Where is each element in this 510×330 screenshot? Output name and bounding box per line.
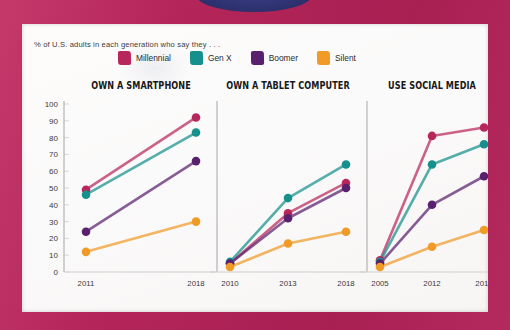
data-point-boomer — [342, 184, 351, 193]
legend-item-silent: Silent — [317, 51, 356, 65]
subtitle: % of U.S. adults in each generation who … — [34, 40, 220, 49]
data-point-silent — [192, 217, 201, 226]
panel-title-social-media: USE SOCIAL MEDIA — [388, 80, 476, 91]
data-point-millennial — [480, 123, 488, 132]
series-line-boomer — [86, 161, 196, 232]
data-point-boomer — [480, 172, 488, 181]
y-axis-tick-label: 90 — [49, 117, 58, 126]
x-axis-tick-label: 2013 — [279, 279, 296, 288]
infographic-page: % of U.S. adults in each generation who … — [22, 24, 488, 312]
y-axis-tick-label: 20 — [49, 234, 58, 243]
chart-panels: 0102030405060708090100201120182010201320… — [22, 96, 488, 302]
x-axis-tick-label: 2011 — [78, 279, 95, 288]
legend-label: Silent — [335, 53, 356, 63]
legend-label: Boomer — [269, 53, 298, 63]
data-point-silent — [226, 263, 235, 272]
y-axis-tick-label: 10 — [49, 251, 58, 260]
data-point-boomer — [192, 157, 201, 166]
data-point-gen-x — [284, 194, 293, 203]
data-point-boomer — [82, 227, 91, 236]
legend-label: Millennial — [136, 53, 171, 63]
legend-item-gen-x: Gen X — [190, 51, 232, 65]
series-line-millennial — [380, 128, 484, 261]
color-swatch-icon — [251, 51, 264, 65]
x-axis-tick-label: 2012 — [423, 279, 440, 288]
panel-title-smartphone: OWN A SMARTPHONE — [91, 80, 191, 91]
poster-border: % of U.S. adults in each generation who … — [0, 0, 510, 330]
series-line-millennial — [86, 117, 196, 189]
data-point-gen-x — [428, 160, 437, 169]
data-point-silent — [376, 263, 385, 272]
data-point-gen-x — [192, 128, 201, 137]
x-axis-tick-label: 2018 — [187, 279, 204, 288]
chart-legend: Millennial Gen X Boomer Silent — [118, 51, 356, 65]
legend-label: Gen X — [208, 53, 232, 63]
y-axis-tick-label: 30 — [49, 218, 58, 227]
chart-panel-1: 20112018 — [66, 101, 217, 288]
data-point-silent — [82, 248, 91, 257]
color-swatch-icon — [190, 51, 203, 65]
color-swatch-icon — [317, 51, 330, 65]
y-axis-tick-label: 0 — [54, 268, 59, 277]
series-line-silent — [86, 222, 196, 252]
line-chart-svg: 0102030405060708090100201120182010201320… — [22, 96, 488, 302]
data-point-millennial — [192, 113, 201, 122]
x-axis-tick-label: 2018 — [337, 279, 354, 288]
legend-item-boomer: Boomer — [251, 51, 298, 65]
data-point-gen-x — [480, 140, 488, 149]
data-point-silent — [284, 239, 293, 248]
x-axis-tick-label: 2005 — [371, 279, 389, 288]
series-line-gen-x — [86, 133, 196, 195]
y-axis-tick-label: 70 — [49, 150, 58, 159]
panel-title-tablet: OWN A TABLET COMPUTER — [226, 80, 350, 91]
data-point-boomer — [428, 201, 437, 210]
data-point-millennial — [428, 132, 437, 141]
data-point-gen-x — [342, 160, 351, 169]
y-axis-tick-label: 80 — [49, 134, 58, 143]
y-axis-tick-label: 40 — [49, 201, 58, 210]
x-axis-tick-label: 2018 — [475, 279, 488, 288]
data-point-gen-x — [82, 190, 91, 199]
x-axis-tick-label: 2010 — [221, 279, 239, 288]
panel-titles: OWN A SMARTPHONE OWN A TABLET COMPUTER U… — [22, 80, 488, 94]
y-axis-tick-label: 60 — [49, 167, 58, 176]
y-axis-tick-label: 50 — [49, 184, 58, 193]
top-ellipse-decoration — [196, 0, 312, 12]
chart-panel-3: 200520122018 — [360, 123, 488, 288]
data-point-silent — [428, 243, 437, 252]
data-point-boomer — [284, 214, 293, 223]
legend-item-millennial: Millennial — [118, 51, 171, 65]
y-axis-tick-label: 100 — [45, 100, 59, 109]
data-point-silent — [480, 226, 488, 235]
data-point-silent — [342, 227, 351, 236]
color-swatch-icon — [118, 51, 131, 65]
chart-panel-2: 201020132018 — [210, 101, 367, 288]
